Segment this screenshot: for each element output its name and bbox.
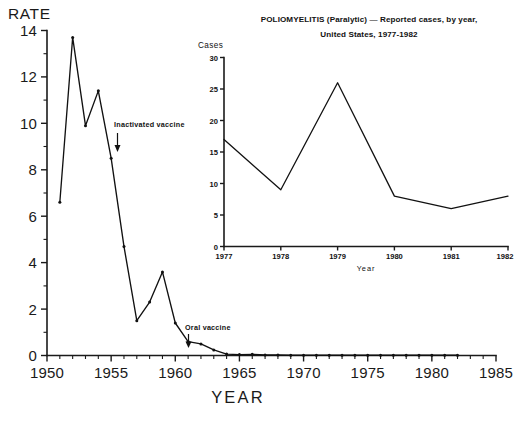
inset-x-tick-label: 1977 xyxy=(216,252,233,261)
annotation-inactivated-vaccine-label: Inactivated vaccine xyxy=(114,120,185,129)
inset-y-tick-label: 0 xyxy=(214,243,218,252)
inset-x-axis-title: Year xyxy=(357,264,376,273)
main-data-point xyxy=(328,354,331,357)
main-data-point xyxy=(379,354,382,357)
annotation-oral-vaccine-label: Oral vaccine xyxy=(185,323,231,332)
main-y-tick-label: 8 xyxy=(28,161,37,178)
inset-y-tick-labels: 0 5 10 15 20 25 30 xyxy=(210,54,219,252)
main-data-point xyxy=(443,354,446,357)
main-y-tick-label: 14 xyxy=(20,22,37,39)
main-data-point xyxy=(161,270,164,273)
main-data-point xyxy=(97,89,100,92)
inset-x-tick-label: 1981 xyxy=(443,252,461,261)
main-data-point xyxy=(110,157,113,160)
inset-x-tick-label: 1982 xyxy=(497,252,514,261)
main-y-tick-label: 4 xyxy=(28,254,37,271)
main-data-point xyxy=(405,354,408,357)
main-data-point xyxy=(225,353,228,356)
inset-y-tick-label: 20 xyxy=(210,117,218,126)
main-y-tick-labels: 0 2 4 6 8 10 12 14 xyxy=(20,22,37,364)
main-data-point xyxy=(341,354,344,357)
inset-y-tick-label: 5 xyxy=(214,211,219,220)
main-data-point xyxy=(392,354,395,357)
main-data-point xyxy=(135,319,138,322)
chart-canvas: RATE 0 xyxy=(0,0,527,423)
main-x-tick-label: 1955 xyxy=(94,364,128,381)
main-y-axis-title: RATE xyxy=(8,5,51,22)
main-x-tick-label: 1985 xyxy=(479,364,513,381)
inset-chart: POLIOMYELITIS (Paralytic) — Reported cas… xyxy=(198,15,513,273)
main-y-tick-label: 0 xyxy=(28,347,37,364)
main-data-point xyxy=(264,354,267,357)
inset-y-tick-label: 15 xyxy=(210,148,219,157)
inset-data-line xyxy=(224,83,508,209)
main-x-tick-label: 1970 xyxy=(287,364,321,381)
main-data-point xyxy=(251,353,254,356)
main-x-tick-label: 1975 xyxy=(351,364,385,381)
main-data-point xyxy=(418,354,421,357)
main-x-tick-label: 1980 xyxy=(415,364,449,381)
main-x-tick-label: 1965 xyxy=(222,364,256,381)
annotation-oral-vaccine: Oral vaccine xyxy=(185,323,231,348)
main-data-point xyxy=(174,322,177,325)
main-data-point xyxy=(456,354,459,357)
main-data-point xyxy=(212,348,215,351)
poliomyelitis-figure: RATE 0 xyxy=(0,0,527,423)
main-x-axis-title: YEAR xyxy=(211,388,265,406)
main-data-point xyxy=(71,36,74,39)
inset-y-axis-title: Cases xyxy=(198,41,223,50)
main-data-point xyxy=(315,354,318,357)
inset-y-tick-label: 10 xyxy=(210,180,218,189)
inset-x-tick-label: 1980 xyxy=(386,252,403,261)
main-data-point xyxy=(353,354,356,357)
main-data-point xyxy=(238,353,241,356)
main-data-point xyxy=(199,342,202,345)
inset-title-line2: United States, 1977-1982 xyxy=(320,30,418,39)
main-data-markers xyxy=(58,36,459,357)
main-y-ticks xyxy=(41,31,47,356)
annotation-inactivated-vaccine: Inactivated vaccine xyxy=(114,120,185,152)
inset-y-tick-label: 25 xyxy=(210,85,219,94)
main-data-point xyxy=(302,354,305,357)
main-data-point xyxy=(58,201,61,204)
main-y-tick-label: 10 xyxy=(20,115,37,132)
inset-y-tick-label: 30 xyxy=(210,54,218,63)
main-y-tick-label: 12 xyxy=(20,68,37,85)
main-data-point xyxy=(276,354,279,357)
main-data-point xyxy=(289,354,292,357)
main-data-point xyxy=(122,245,125,248)
main-data-point xyxy=(366,354,369,357)
main-data-point xyxy=(430,354,433,357)
main-data-point xyxy=(148,301,151,304)
inset-x-tick-label: 1978 xyxy=(272,252,289,261)
main-x-tick-label: 1960 xyxy=(158,364,192,381)
main-data-point xyxy=(84,124,87,127)
main-x-ticks xyxy=(47,356,496,362)
main-x-tick-labels: 1950 1955 1960 1965 1970 1975 1980 1985 xyxy=(30,364,513,381)
inset-title-line1: POLIOMYELITIS (Paralytic) — Reported cas… xyxy=(261,15,478,24)
main-x-tick-label: 1950 xyxy=(30,364,64,381)
inset-x-tick-labels: 1977 1978 1979 1980 1981 1982 xyxy=(216,252,514,261)
main-y-tick-label: 2 xyxy=(28,301,37,318)
main-y-tick-label: 6 xyxy=(28,208,37,225)
inset-x-tick-label: 1979 xyxy=(329,252,346,261)
